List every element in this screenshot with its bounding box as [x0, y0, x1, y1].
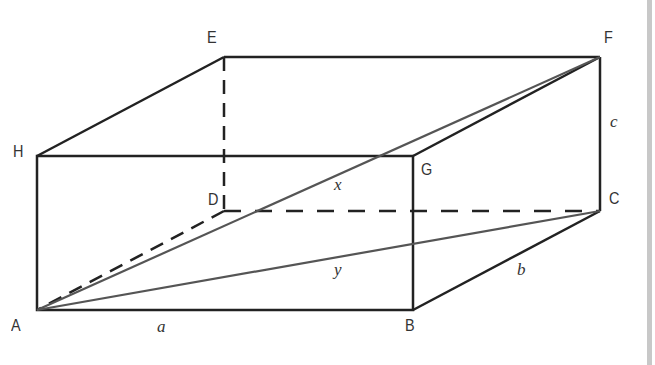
edge-label-a: a: [157, 317, 166, 337]
edge-CB: [413, 211, 600, 310]
diagonal-label-x: x: [334, 175, 342, 195]
edge-HE: [37, 57, 224, 156]
vertex-label-C: C: [609, 189, 619, 209]
vertex-label-B: B: [405, 316, 415, 336]
edge-FG: [413, 57, 600, 156]
prism-diagram: [0, 0, 655, 365]
vertex-label-F: F: [604, 28, 613, 48]
scrollbar-track[interactable]: [647, 0, 652, 365]
vertex-label-G: G: [421, 160, 432, 180]
edge-DA-hidden: [37, 211, 224, 310]
vertex-label-D: D: [208, 190, 218, 210]
vertex-label-A: A: [11, 316, 21, 336]
vertex-label-E: E: [207, 28, 217, 48]
vertex-label-H: H: [13, 142, 23, 162]
edge-label-c: c: [610, 112, 618, 132]
edge-label-b: b: [517, 260, 526, 280]
diagonal-x-AF: [37, 57, 600, 310]
diagonal-y-AC: [37, 211, 600, 310]
diagonal-label-y: y: [334, 260, 342, 280]
